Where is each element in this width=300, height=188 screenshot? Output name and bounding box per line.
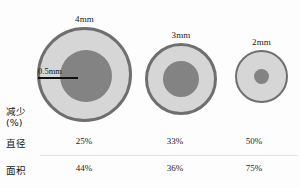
diameter-value-1: 25% [58,136,110,146]
area-value-1: 44% [58,163,110,173]
diameter-value-3: 50% [228,136,280,146]
area-value-3: 75% [228,163,280,173]
scale-bar-icon [38,77,78,79]
circle-group-3: 2mm [235,37,288,110]
size-label-2: 3mm [145,30,217,40]
stenosis-diagram: 4mm 0.5mm 3mm 2mm 减少 (%) 直径 面积 25% 33% 5… [0,0,300,188]
diameter-value-2: 33% [149,136,201,146]
row-label-area: 面积 [6,163,26,177]
vessel-lumen-circle-2 [163,61,199,97]
vessel-lumen-circle-3 [254,69,269,84]
scale-annotation: 0.5mm [38,66,83,79]
scale-annotation-label: 0.5mm [38,66,83,76]
row-divider [40,155,298,156]
row-label-percent: (%) [6,117,22,128]
area-value-2: 36% [149,163,201,173]
size-label-1: 4mm [37,14,132,24]
row-label-diameter: 直径 [6,136,26,150]
size-label-3: 2mm [235,37,288,47]
row-label-reduction: 减少 [6,104,26,118]
circle-group-2: 3mm [145,30,217,122]
